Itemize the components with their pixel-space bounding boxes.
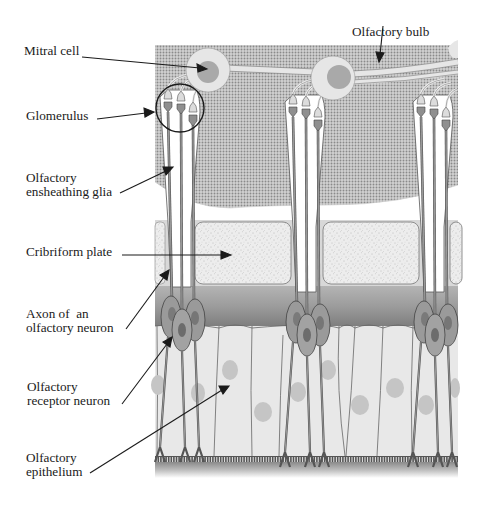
label-glomerulus: Glomerulus xyxy=(26,109,88,123)
label-olfactory-bulb: Olfactory bulb xyxy=(352,25,429,39)
mitral-cell-2 xyxy=(311,56,355,100)
label-epithelium: Olfactory epithelium xyxy=(26,451,82,479)
label-ensheathing-glia: Olfactory ensheathing glia xyxy=(26,171,112,199)
cribriform-plate-block xyxy=(195,222,291,284)
label-receptor-neuron: Olfactory receptor neuron xyxy=(27,380,110,408)
label-cribriform-plate: Cribriform plate xyxy=(26,245,112,259)
label-axon: Axon of an olfactory neuron xyxy=(26,307,114,335)
mitral-cell-1 xyxy=(186,48,230,92)
label-mitral-cell: Mitral cell xyxy=(24,44,79,58)
cribriform-plate-block xyxy=(323,222,419,284)
